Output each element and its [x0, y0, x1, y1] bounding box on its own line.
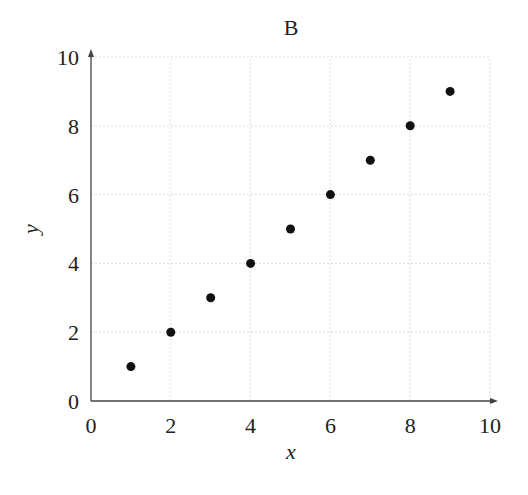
- x-axis-label: x: [285, 439, 296, 464]
- y-tick-label: 4: [68, 251, 79, 276]
- x-tick-label: 6: [325, 413, 336, 438]
- data-point: [406, 121, 415, 130]
- tick-labels: 02468100246810: [57, 45, 501, 438]
- x-axis-arrow-icon: [490, 398, 498, 404]
- y-tick-label: 8: [68, 114, 79, 139]
- data-point: [206, 293, 215, 302]
- y-tick-label: 6: [68, 183, 79, 208]
- y-tick-label: 10: [57, 45, 79, 70]
- y-tick-label: 2: [68, 320, 79, 345]
- scatter-chart: 02468100246810 B x y: [0, 0, 528, 495]
- y-axis-arrow-icon: [88, 49, 94, 57]
- x-tick-label: 4: [245, 413, 256, 438]
- y-axis-label: y: [18, 224, 43, 236]
- data-point: [166, 328, 175, 337]
- x-tick-label: 2: [165, 413, 176, 438]
- x-tick-label: 8: [405, 413, 416, 438]
- data-point: [446, 87, 455, 96]
- data-point: [366, 156, 375, 165]
- data-point: [326, 190, 335, 199]
- data-points: [126, 87, 454, 371]
- data-point: [126, 362, 135, 371]
- data-point: [286, 225, 295, 234]
- chart-title: B: [284, 15, 299, 40]
- x-tick-label: 10: [479, 413, 501, 438]
- x-tick-label: 0: [86, 413, 97, 438]
- y-tick-label: 0: [68, 389, 79, 414]
- data-point: [246, 259, 255, 268]
